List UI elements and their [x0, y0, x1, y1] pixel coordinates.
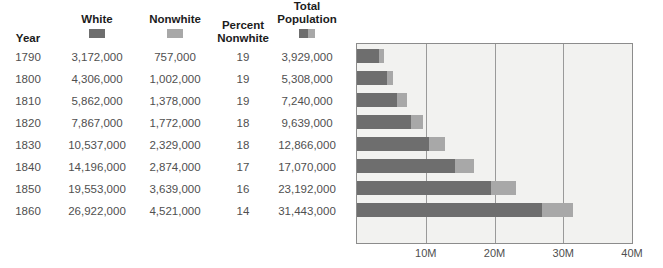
cell-year: 1850 [0, 178, 56, 200]
column-header-percent-nonwhite-line1: Percent [212, 19, 274, 32]
bar-segment-white-1810 [357, 93, 397, 107]
cell-total: 9,639,000 [274, 112, 340, 134]
column-header-white-label: White [56, 13, 138, 26]
bar-segment-white-1800 [357, 71, 387, 85]
cell-year: 1860 [0, 200, 56, 222]
table-row: 17903,172,000757,000193,929,000 [0, 46, 340, 68]
bar-segment-nonwhite-1820 [411, 115, 423, 129]
bar-group-1830 [357, 133, 632, 155]
x-tick-label-20M: 20M [484, 247, 505, 259]
column-header-percent-nonwhite-line2: Nonwhite [212, 32, 274, 45]
bar-segment-nonwhite-1830 [429, 137, 445, 151]
cell-percent_nonwhite: 14 [212, 200, 274, 222]
table-row: 184014,196,0002,874,0001717,070,000 [0, 156, 340, 178]
table-row: 185019,553,0003,639,0001623,192,000 [0, 178, 340, 200]
cell-year: 1800 [0, 68, 56, 90]
table-row: 186026,922,0004,521,0001431,443,000 [0, 200, 340, 222]
cell-percent_nonwhite: 18 [212, 134, 274, 156]
column-header-total-population-line2: Population [274, 13, 340, 26]
chart-plot-area [356, 43, 633, 244]
cell-year: 1790 [0, 46, 56, 68]
table-row: 183010,537,0002,329,0001812,866,000 [0, 134, 340, 156]
bar-segment-white-1820 [357, 115, 411, 129]
cell-percent_nonwhite: 19 [212, 68, 274, 90]
stacked-bar-chart [356, 43, 635, 246]
bar-segment-white-1840 [357, 159, 455, 173]
cell-total: 5,308,000 [274, 68, 340, 90]
cell-nonwhite: 1,772,000 [138, 112, 212, 134]
cell-nonwhite: 4,521,000 [138, 200, 212, 222]
legend-swatch-total-wrap [274, 25, 340, 44]
cell-nonwhite: 2,329,000 [138, 134, 212, 156]
column-header-year-label: Year [0, 32, 56, 45]
cell-total: 7,240,000 [274, 90, 340, 112]
legend-swatch-total-nonwhite-half [308, 29, 315, 38]
bar-group-1860 [357, 199, 632, 221]
legend-swatch-total-white-half [299, 29, 308, 38]
data-table-panel: Year White Nonwhite Percent Nonwhite [0, 0, 345, 268]
bar-segment-white-1860 [357, 203, 542, 217]
cell-white: 10,537,000 [56, 134, 138, 156]
bar-group-1800 [357, 67, 632, 89]
column-header-nonwhite-label: Nonwhite [138, 13, 212, 26]
cell-percent_nonwhite: 16 [212, 178, 274, 200]
bar-group-1850 [357, 177, 632, 199]
bar-segment-nonwhite-1810 [397, 93, 406, 107]
x-tick-label-30M: 30M [553, 247, 574, 259]
bar-segment-nonwhite-1860 [542, 203, 573, 217]
bar-group-1820 [357, 111, 632, 133]
cell-total: 23,192,000 [274, 178, 340, 200]
x-tick-label-10M: 10M [415, 247, 436, 259]
column-header-year: Year [0, 0, 56, 46]
bar-group-1840 [357, 155, 632, 177]
legend-swatch-total [299, 29, 315, 38]
bar-segment-white-1790 [357, 49, 379, 63]
table-row: 18004,306,0001,002,000195,308,000 [0, 68, 340, 90]
cell-white: 3,172,000 [56, 46, 138, 68]
cell-white: 26,922,000 [56, 200, 138, 222]
table-header-row: Year White Nonwhite Percent Nonwhite [0, 0, 340, 46]
cell-total: 3,929,000 [274, 46, 340, 68]
cell-white: 19,553,000 [56, 178, 138, 200]
legend-swatch-white [89, 29, 105, 38]
bar-segment-nonwhite-1840 [455, 159, 475, 173]
cell-white: 14,196,000 [56, 156, 138, 178]
cell-percent_nonwhite: 18 [212, 112, 274, 134]
cell-year: 1810 [0, 90, 56, 112]
column-header-nonwhite: Nonwhite [138, 0, 212, 46]
cell-total: 17,070,000 [274, 156, 340, 178]
legend-swatch-nonwhite [167, 29, 183, 38]
cell-total: 12,866,000 [274, 134, 340, 156]
column-header-white: White [56, 0, 138, 46]
chart-x-axis: 10M20M30M40M [356, 247, 635, 265]
cell-white: 7,867,000 [56, 112, 138, 134]
bar-group-1810 [357, 89, 632, 111]
cell-white: 4,306,000 [56, 68, 138, 90]
table-row: 18207,867,0001,772,000189,639,000 [0, 112, 340, 134]
x-tick-label-40M: 40M [621, 247, 642, 259]
cell-nonwhite: 2,874,000 [138, 156, 212, 178]
cell-nonwhite: 1,378,000 [138, 90, 212, 112]
table-header: Year White Nonwhite Percent Nonwhite [0, 0, 340, 46]
cell-year: 1840 [0, 156, 56, 178]
legend-swatch-nonwhite-wrap [138, 25, 212, 44]
cell-nonwhite: 1,002,000 [138, 68, 212, 90]
cell-percent_nonwhite: 17 [212, 156, 274, 178]
column-header-percent-nonwhite: Percent Nonwhite [212, 0, 274, 46]
bar-group-1790 [357, 45, 632, 67]
cell-percent_nonwhite: 19 [212, 90, 274, 112]
cell-year: 1830 [0, 134, 56, 156]
cell-year: 1820 [0, 112, 56, 134]
table-body: 17903,172,000757,000193,929,00018004,306… [0, 46, 340, 222]
population-table: Year White Nonwhite Percent Nonwhite [0, 0, 340, 222]
bar-segment-white-1850 [357, 181, 491, 195]
cell-nonwhite: 757,000 [138, 46, 212, 68]
bar-segment-nonwhite-1790 [379, 49, 384, 63]
table-row: 18105,862,0001,378,000197,240,000 [0, 90, 340, 112]
cell-white: 5,862,000 [56, 90, 138, 112]
bar-segment-nonwhite-1800 [387, 71, 394, 85]
bar-segment-nonwhite-1850 [491, 181, 516, 195]
cell-nonwhite: 3,639,000 [138, 178, 212, 200]
cell-percent_nonwhite: 19 [212, 46, 274, 68]
bar-segment-white-1830 [357, 137, 429, 151]
